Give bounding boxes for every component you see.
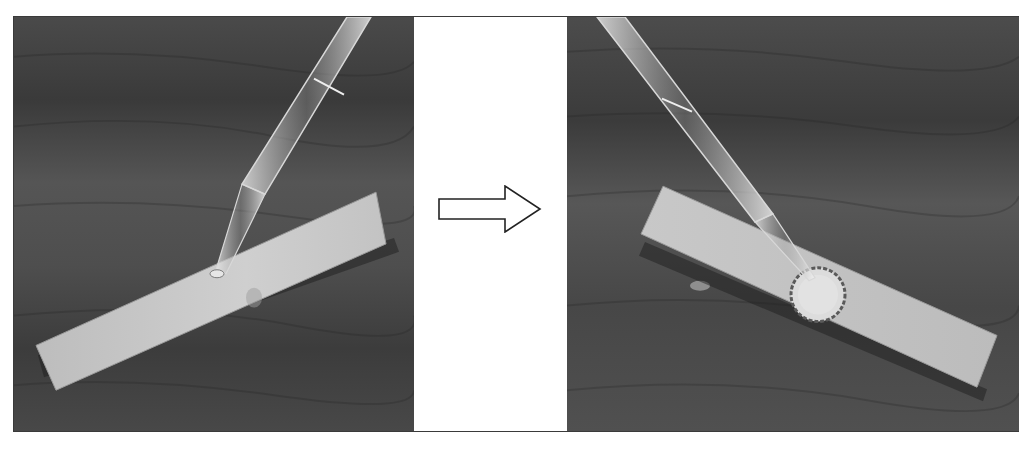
figure-frame (13, 16, 1019, 432)
photo-after (567, 17, 1019, 431)
transition-panel (414, 17, 567, 431)
photo-before (14, 17, 414, 431)
right-arrow-icon (438, 185, 542, 233)
photo-before-image (14, 17, 414, 431)
photo-after-image (567, 17, 1019, 431)
